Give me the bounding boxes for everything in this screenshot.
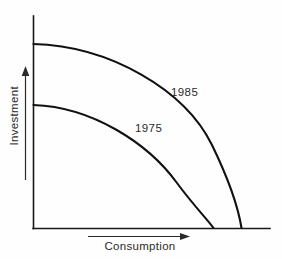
curve-1975 (34, 105, 214, 228)
curve-1985 (34, 44, 242, 228)
up-arrow-icon (22, 66, 30, 180)
curve-label-1985: 1985 (171, 87, 198, 99)
curve-label-1975: 1975 (135, 123, 162, 135)
y-axis-title: Investment (9, 76, 21, 156)
x-axis-title: Consumption (88, 241, 192, 253)
production-possibility-frontier-chart: 1985 1975 Consumption Investment (0, 0, 282, 259)
